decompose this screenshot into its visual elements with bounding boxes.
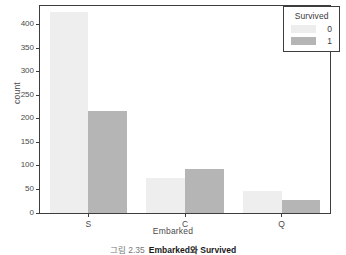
y-tick-label: 0 bbox=[30, 208, 34, 217]
figure-embarked-survived: count 050100150200250300350400SCQ Embark… bbox=[0, 0, 346, 255]
legend-title: Survived bbox=[291, 11, 332, 21]
y-tick-mark bbox=[36, 142, 40, 143]
y-tick-label: 100 bbox=[21, 160, 34, 169]
y-tick-label: 250 bbox=[21, 90, 34, 99]
x-tick-mark bbox=[281, 213, 282, 217]
y-tick-label: 50 bbox=[25, 184, 34, 193]
legend[interactable]: Survived 0 1 bbox=[283, 6, 340, 52]
bar-C-survived-0 bbox=[146, 178, 185, 213]
y-tick-label: 400 bbox=[21, 19, 34, 28]
legend-item-0[interactable]: 0 bbox=[291, 24, 332, 34]
y-tick-mark bbox=[36, 189, 40, 190]
bar-S-survived-0 bbox=[50, 12, 89, 213]
figure-caption: 그림 2.35Embarked와 Survived bbox=[0, 243, 346, 255]
caption-number: 그림 2.35 bbox=[110, 245, 145, 255]
y-tick-mark bbox=[36, 165, 40, 166]
x-axis-label: Embarked bbox=[0, 226, 346, 236]
legend-swatch-0-icon bbox=[291, 25, 316, 33]
x-tick-mark bbox=[88, 213, 89, 217]
y-tick-label: 200 bbox=[21, 113, 34, 122]
bar-Q-survived-0 bbox=[243, 191, 282, 213]
caption-text: Embarked와 Survived bbox=[149, 245, 236, 255]
y-tick-mark bbox=[36, 213, 40, 214]
bar-S-survived-1 bbox=[88, 111, 127, 213]
y-tick-mark bbox=[36, 24, 40, 25]
legend-item-1[interactable]: 1 bbox=[291, 36, 332, 46]
y-tick-mark bbox=[36, 118, 40, 119]
legend-label-0: 0 bbox=[327, 24, 332, 34]
bar-C-survived-1 bbox=[185, 169, 224, 213]
y-tick-mark bbox=[36, 48, 40, 49]
y-tick-label: 350 bbox=[21, 43, 34, 52]
y-tick-label: 300 bbox=[21, 66, 34, 75]
y-tick-mark bbox=[36, 95, 40, 96]
x-tick-mark bbox=[185, 213, 186, 217]
y-tick-label: 150 bbox=[21, 137, 34, 146]
y-tick-mark bbox=[36, 71, 40, 72]
bar-Q-survived-1 bbox=[282, 200, 321, 213]
legend-swatch-1-icon bbox=[291, 37, 316, 45]
legend-label-1: 1 bbox=[327, 36, 332, 46]
